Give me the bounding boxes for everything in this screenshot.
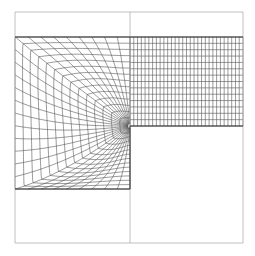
mesh-canvas [0,0,255,256]
mesh-diagram [0,0,255,256]
mesh-line-ring [38,54,130,180]
mesh-lines [15,37,243,189]
